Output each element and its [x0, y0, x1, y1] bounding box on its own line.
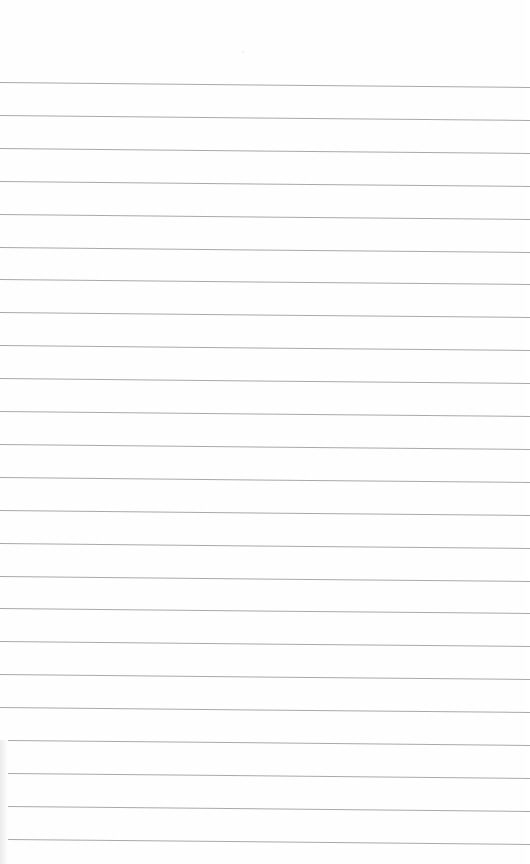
ruled-line [8, 806, 530, 812]
ruled-line [0, 510, 530, 516]
ruled-line [0, 378, 530, 384]
ruled-line [0, 674, 530, 680]
ruled-line [0, 312, 530, 318]
ruled-line [0, 247, 530, 253]
ruled-line [0, 411, 530, 417]
ruled-line [0, 444, 530, 450]
ruled-line [0, 543, 530, 549]
ruled-line [0, 148, 530, 154]
ruled-line [8, 839, 530, 845]
ruled-line [0, 115, 530, 121]
ruled-line [8, 773, 530, 779]
paper-speck [242, 51, 244, 53]
ruled-line [0, 707, 530, 713]
ruled-line [0, 576, 530, 582]
ruled-line [0, 214, 530, 220]
ruled-line [0, 181, 530, 187]
ruled-line [0, 345, 530, 351]
ruled-line [0, 641, 530, 647]
ruled-line [0, 279, 530, 285]
ruled-line [0, 82, 530, 88]
ruled-line [0, 608, 530, 614]
paper-edge-shadow [0, 740, 8, 864]
ruled-line [8, 740, 530, 746]
ruled-line [0, 477, 530, 483]
